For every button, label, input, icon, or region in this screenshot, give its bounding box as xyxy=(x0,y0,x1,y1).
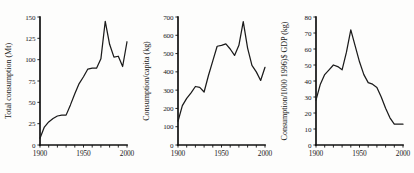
y-axis-tick-label: 700 xyxy=(163,14,174,22)
x-axis-tick-label: 2000 xyxy=(258,149,273,158)
y-axis-tick-label: 60 xyxy=(305,46,312,54)
y-axis-tick-label: 25 xyxy=(29,120,36,128)
y-axis-tick-label: 40 xyxy=(305,78,312,86)
y-axis-tick-label: 125 xyxy=(25,35,36,43)
y-axis-tick-label: 70 xyxy=(305,30,312,38)
y-axis-tick-label: 50 xyxy=(29,99,36,107)
y-axis-title: Total consumption (Mt) xyxy=(4,43,13,119)
x-axis-tick-label: 1950 xyxy=(214,149,229,158)
data-series-line xyxy=(316,30,403,124)
y-axis-tick-label: 200 xyxy=(163,105,174,113)
y-axis-tick-label: 150 xyxy=(25,14,36,22)
y-axis-tick-label: 100 xyxy=(25,56,36,64)
chart-panel-consumption-per-gdp: 01020304050607080190019502000Consumption… xyxy=(276,0,414,173)
y-axis-tick-label: 600 xyxy=(163,32,174,40)
data-series-line xyxy=(40,21,127,138)
y-axis-tick-label: 30 xyxy=(305,94,312,102)
y-axis-tick-label: 20 xyxy=(305,110,312,118)
chart-svg: 0100200300400500600700190019502000Consum… xyxy=(138,0,276,173)
chart-panel-consumption-per-capita: 0100200300400500600700190019502000Consum… xyxy=(138,0,276,173)
x-axis-tick-label: 1950 xyxy=(352,149,367,158)
figure-three-panel-line-charts: 0255075100125150190019502000Total consum… xyxy=(0,0,414,173)
y-axis-tick-label: 400 xyxy=(163,68,174,76)
y-axis-tick-label: 75 xyxy=(29,78,36,86)
x-axis-tick-label: 1900 xyxy=(171,149,186,158)
y-axis-title: Consumption/capita (kg) xyxy=(142,41,151,121)
y-axis-title: Consumption/1000 1996)$ GDP (kg) xyxy=(280,21,289,140)
x-axis-tick-label: 2000 xyxy=(396,149,411,158)
x-axis-tick-label: 2000 xyxy=(120,149,135,158)
x-axis-tick-label: 1900 xyxy=(309,149,324,158)
y-axis-tick-label: 100 xyxy=(163,123,174,131)
x-axis-tick-label: 1900 xyxy=(33,149,48,158)
chart-svg: 0255075100125150190019502000Total consum… xyxy=(0,0,138,173)
y-axis-tick-label: 50 xyxy=(305,62,312,70)
y-axis-tick-label: 300 xyxy=(163,87,174,95)
y-axis-tick-label: 500 xyxy=(163,50,174,58)
x-axis-tick-label: 1950 xyxy=(76,149,91,158)
data-series-line xyxy=(178,22,265,122)
chart-panel-total-consumption: 0255075100125150190019502000Total consum… xyxy=(0,0,138,173)
y-axis-tick-label: 10 xyxy=(305,126,312,134)
y-axis-tick-label: 80 xyxy=(305,14,312,22)
chart-svg: 01020304050607080190019502000Consumption… xyxy=(276,0,414,173)
